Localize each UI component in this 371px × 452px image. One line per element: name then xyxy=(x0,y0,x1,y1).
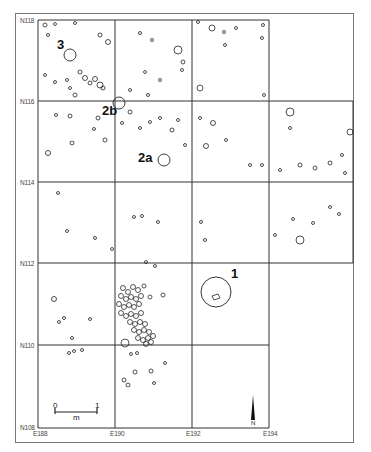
grid-label-e194: E194 xyxy=(263,430,277,437)
excavation-grid xyxy=(38,20,353,428)
feature-label-2a: 2a xyxy=(138,150,152,165)
feature-circles xyxy=(64,49,231,307)
grid-label-e192: E192 xyxy=(186,430,200,437)
scale-end-label: 1 xyxy=(95,401,99,410)
feature-1-circle xyxy=(201,277,231,307)
cobble-cluster xyxy=(117,284,156,347)
site-plan-map: N118 N116 N114 N112 N110 N108 E188 E190 … xyxy=(0,0,371,452)
grid-label-n114: N114 xyxy=(20,179,34,186)
grid-label-n110: N110 xyxy=(20,342,34,349)
grid-and-finds xyxy=(0,0,371,452)
artifact-outlines xyxy=(43,21,353,388)
grid-label-n116: N116 xyxy=(20,98,34,105)
grid-label-e190: E190 xyxy=(110,430,124,437)
feature-3-circle xyxy=(64,49,76,61)
feature-label-2b: 2b xyxy=(102,103,117,118)
grid-label-n112: N112 xyxy=(20,260,34,267)
scale-unit-label: m xyxy=(73,413,79,422)
north-arrow-icon xyxy=(251,395,255,420)
feature-label-3: 3 xyxy=(57,37,64,52)
north-arrow-label: N xyxy=(251,420,255,426)
grid-label-e188: E188 xyxy=(33,430,47,437)
feature-2a-circle xyxy=(158,154,170,166)
scale-start-label: 0 xyxy=(53,401,57,410)
feature-label-1: 1 xyxy=(231,266,238,281)
grid-label-n118: N118 xyxy=(20,17,34,24)
